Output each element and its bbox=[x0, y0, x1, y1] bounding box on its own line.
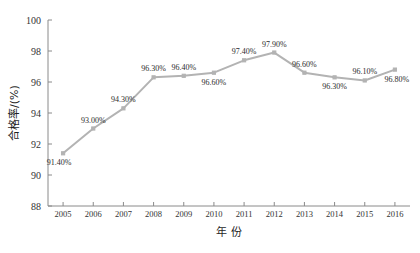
data-point-marker bbox=[393, 68, 396, 71]
data-point-marker bbox=[61, 152, 64, 155]
y-axis-title: 合格率/(%) bbox=[7, 85, 21, 141]
data-point-marker bbox=[212, 71, 215, 74]
x-tick-label: 2010 bbox=[205, 209, 222, 219]
data-point-marker bbox=[242, 59, 245, 62]
data-point-label: 94.30% bbox=[111, 95, 136, 104]
data-point-labels: 91.40%93.00%94.30%96.30%96.40%96.60%97.4… bbox=[47, 40, 410, 168]
x-tick-label: 2016 bbox=[386, 209, 403, 219]
y-tick-label: 96 bbox=[31, 77, 41, 88]
x-tick-label: 2007 bbox=[115, 209, 132, 219]
x-tick-label: 2005 bbox=[55, 209, 72, 219]
x-tick-label: 2009 bbox=[175, 209, 192, 219]
page-artifact-top bbox=[6, 0, 216, 9]
data-point-marker bbox=[333, 76, 336, 79]
data-point-label: 97.90% bbox=[262, 40, 287, 49]
y-tick-label: 88 bbox=[31, 201, 41, 212]
data-point-marker bbox=[303, 71, 306, 74]
chart-container: 889092949698100 200520062007200820092010… bbox=[0, 0, 420, 253]
line-chart: 889092949698100 200520062007200820092010… bbox=[0, 0, 420, 253]
chart-axes bbox=[48, 20, 410, 206]
data-point-label: 96.10% bbox=[352, 67, 377, 76]
x-tick-label: 2011 bbox=[236, 209, 253, 219]
x-tick-label: 2015 bbox=[356, 209, 373, 219]
x-tick-label: 2008 bbox=[145, 209, 162, 219]
x-axis-title: 年 份 bbox=[216, 225, 242, 239]
y-tick-label: 94 bbox=[31, 108, 41, 119]
x-tick-label: 2013 bbox=[296, 209, 313, 219]
page-artifact-bottom bbox=[128, 243, 398, 252]
x-tick-label: 2014 bbox=[326, 209, 344, 219]
data-point-label: 93.00% bbox=[81, 116, 106, 125]
data-point-label: 96.30% bbox=[141, 64, 166, 73]
data-point-label: 96.60% bbox=[202, 78, 227, 87]
y-tick-label: 100 bbox=[26, 15, 41, 26]
data-point-marker bbox=[273, 51, 276, 54]
y-tick-label: 98 bbox=[31, 46, 41, 57]
data-point-marker bbox=[92, 127, 95, 130]
y-tick-label: 90 bbox=[31, 170, 41, 181]
x-tick-label: 2012 bbox=[266, 209, 283, 219]
data-point-label: 96.40% bbox=[171, 63, 196, 72]
data-point-label: 96.80% bbox=[385, 75, 410, 84]
data-point-marker bbox=[182, 74, 185, 77]
x-axis-ticks: 2005200620072008200920102011201220132014… bbox=[55, 202, 404, 219]
data-point-label: 91.40% bbox=[47, 158, 72, 167]
data-point-marker bbox=[122, 107, 125, 110]
data-point-marker bbox=[363, 79, 366, 82]
x-tick-label: 2006 bbox=[85, 209, 102, 219]
data-point-label: 97.40% bbox=[232, 47, 257, 56]
data-point-label: 96.30% bbox=[322, 82, 347, 91]
data-point-marker bbox=[152, 76, 155, 79]
y-tick-label: 92 bbox=[31, 139, 41, 150]
data-point-label: 96.60% bbox=[292, 60, 317, 69]
